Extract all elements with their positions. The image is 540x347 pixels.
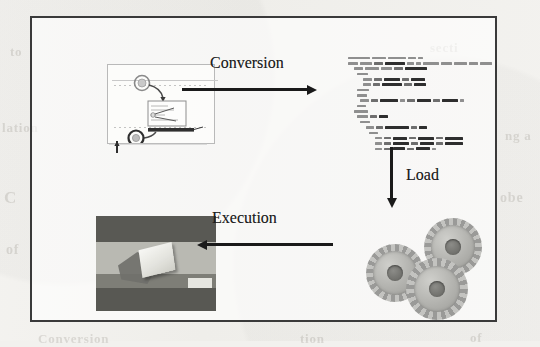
code-token bbox=[400, 99, 405, 102]
code-token bbox=[357, 73, 368, 76]
code-token bbox=[369, 132, 378, 135]
bpmn-process-model-thumbnail bbox=[103, 56, 219, 152]
code-token bbox=[393, 137, 407, 140]
ghost-text: C bbox=[4, 188, 17, 208]
ghost-text: obe bbox=[500, 190, 524, 206]
code-token bbox=[375, 142, 382, 145]
render-band-top bbox=[96, 216, 216, 242]
code-token bbox=[404, 83, 412, 86]
code-line bbox=[348, 61, 506, 65]
code-token bbox=[480, 62, 492, 65]
code-token bbox=[360, 99, 369, 102]
code-token bbox=[354, 67, 363, 70]
code-token bbox=[402, 78, 409, 81]
code-token bbox=[407, 99, 415, 102]
ghost-text: of bbox=[6, 242, 19, 258]
ghost-text: Conversion bbox=[38, 331, 109, 347]
code-token bbox=[354, 110, 368, 113]
code-token bbox=[375, 137, 382, 140]
code-line bbox=[348, 99, 506, 103]
ghost-text: ng a bbox=[505, 128, 532, 144]
code-token bbox=[436, 142, 443, 145]
code-line bbox=[348, 83, 506, 87]
code-token bbox=[411, 126, 417, 129]
code-token bbox=[441, 62, 452, 65]
code-token bbox=[382, 83, 402, 86]
3d-render-result-image bbox=[96, 216, 216, 311]
code-token bbox=[416, 62, 421, 65]
code-line bbox=[348, 142, 506, 146]
arrow-load-head bbox=[387, 198, 397, 208]
code-token bbox=[357, 105, 366, 108]
code-token bbox=[376, 126, 383, 129]
xml-code-listing bbox=[348, 56, 506, 152]
code-token bbox=[357, 89, 369, 92]
code-token bbox=[419, 126, 427, 129]
code-token bbox=[381, 67, 392, 70]
code-line bbox=[348, 93, 506, 97]
code-token bbox=[469, 62, 478, 65]
code-line bbox=[348, 115, 506, 119]
code-token bbox=[357, 94, 367, 97]
code-line bbox=[348, 125, 506, 129]
code-token bbox=[365, 67, 379, 70]
code-line bbox=[348, 104, 506, 108]
code-line bbox=[348, 72, 506, 76]
code-line bbox=[348, 147, 506, 151]
code-line bbox=[348, 131, 506, 135]
code-token bbox=[411, 78, 425, 81]
code-token bbox=[407, 148, 414, 151]
bpmn-shapes bbox=[108, 65, 214, 143]
arrow-conversion-head bbox=[307, 85, 317, 95]
code-token bbox=[374, 78, 382, 81]
code-line bbox=[348, 67, 506, 71]
code-token bbox=[433, 99, 440, 102]
bpmn-pool bbox=[107, 64, 215, 144]
code-token bbox=[423, 62, 439, 65]
code-token bbox=[393, 147, 405, 150]
code-line bbox=[348, 120, 506, 124]
code-token bbox=[417, 99, 431, 102]
code-token bbox=[363, 83, 371, 86]
code-line bbox=[348, 56, 506, 60]
code-token bbox=[454, 62, 467, 65]
code-token bbox=[407, 62, 414, 65]
code-token bbox=[460, 99, 464, 102]
code-line bbox=[348, 136, 506, 140]
arrow-load-label: Load bbox=[406, 166, 439, 184]
code-token bbox=[384, 78, 400, 81]
code-token bbox=[442, 99, 458, 102]
ghost-text: to bbox=[10, 44, 22, 60]
code-token bbox=[385, 62, 405, 65]
code-token bbox=[445, 142, 463, 145]
code-token bbox=[379, 115, 388, 118]
code-token bbox=[388, 57, 406, 60]
code-token bbox=[348, 62, 358, 65]
code-token bbox=[366, 126, 374, 129]
arrow-execution-line bbox=[207, 243, 333, 246]
code-token bbox=[375, 148, 382, 151]
code-token bbox=[408, 57, 416, 60]
code-token bbox=[436, 137, 443, 140]
code-token bbox=[363, 78, 372, 81]
render-band-bottom bbox=[96, 288, 216, 311]
code-token bbox=[416, 147, 430, 150]
code-token bbox=[445, 137, 463, 140]
arrow-execution-head bbox=[197, 240, 207, 250]
arrow-conversion-label: Conversion bbox=[210, 54, 284, 72]
arrow-conversion-line bbox=[182, 88, 308, 91]
code-token bbox=[373, 83, 380, 86]
gear-bottom bbox=[406, 258, 468, 320]
ghost-text: tion bbox=[300, 331, 325, 347]
code-token bbox=[414, 83, 426, 86]
code-token bbox=[348, 57, 370, 60]
arrow-load-line bbox=[390, 147, 393, 199]
code-token bbox=[418, 57, 423, 60]
code-token bbox=[371, 99, 378, 102]
code-token bbox=[385, 126, 409, 129]
code-line bbox=[348, 109, 506, 113]
code-token bbox=[357, 115, 368, 118]
code-token bbox=[411, 142, 418, 145]
code-token bbox=[374, 62, 383, 65]
code-token bbox=[405, 67, 427, 70]
